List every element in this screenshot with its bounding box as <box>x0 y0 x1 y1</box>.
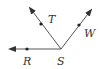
point-r <box>25 47 28 50</box>
point-t <box>39 22 42 25</box>
rays-diagram: T W R S <box>0 0 101 69</box>
label-w: W <box>84 27 97 40</box>
label-t: T <box>48 13 57 26</box>
label-r: R <box>22 55 31 68</box>
point-w <box>77 23 80 26</box>
label-s: S <box>57 55 65 68</box>
ray-st <box>30 8 61 49</box>
